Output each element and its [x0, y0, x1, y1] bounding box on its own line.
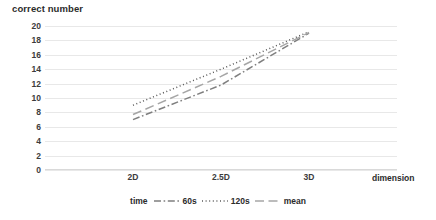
y-axis-tick: 8	[1, 107, 41, 117]
legend-swatch-mean-icon	[255, 197, 281, 205]
y-axis-title: correct number	[12, 3, 83, 14]
y-axis-tick: 4	[1, 136, 41, 146]
x-axis-tick: 3D	[304, 172, 315, 182]
series-line-mean	[133, 32, 309, 114]
legend-label-120s: 120s	[231, 196, 250, 206]
line-chart: correct number 02468101214161820 2D2.5D3…	[0, 0, 436, 220]
gridline	[45, 170, 397, 171]
y-axis-tick: 6	[1, 122, 41, 132]
y-axis-tick: 16	[1, 50, 41, 60]
plot-area	[45, 26, 397, 170]
y-axis-tick: 18	[1, 35, 41, 45]
x-axis-tick-labels: 2D2.5D3D	[45, 172, 397, 188]
series-lines	[45, 26, 397, 170]
legend-label-mean: mean	[284, 196, 306, 206]
chart-legend: time 60s120smean	[0, 196, 436, 206]
legend-label-60s: 60s	[183, 196, 197, 206]
y-axis-tick: 12	[1, 79, 41, 89]
y-axis-tick: 20	[1, 21, 41, 31]
legend-swatch-60s-icon	[154, 197, 180, 205]
y-axis-tick: 14	[1, 64, 41, 74]
legend-item-60s[interactable]: 60s	[154, 196, 197, 206]
legend-title: time	[130, 196, 147, 206]
y-axis-tick: 2	[1, 151, 41, 161]
legend-item-mean[interactable]: mean	[255, 196, 306, 206]
x-axis-tick: 2D	[128, 172, 139, 182]
legend-swatch-120s-icon	[202, 197, 228, 205]
y-axis-tick: 0	[1, 165, 41, 175]
x-axis-tick: 2.5D	[212, 172, 230, 182]
x-axis-title: dimension	[372, 173, 415, 183]
series-line-120s	[133, 32, 309, 105]
legend-item-120s[interactable]: 120s	[202, 196, 250, 206]
y-axis-tick: 10	[1, 93, 41, 103]
y-axis-tick-labels: 02468101214161820	[0, 26, 41, 170]
